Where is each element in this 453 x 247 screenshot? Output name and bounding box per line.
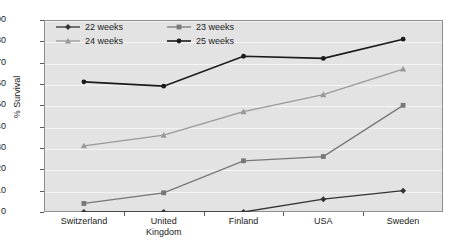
y-axis-title: % Survival — [12, 52, 22, 142]
series-23-weeks — [82, 103, 406, 206]
x-axis-tick-mark — [363, 212, 364, 216]
legend-label: 22 weeks — [85, 22, 123, 32]
x-axis-tick-mark — [283, 212, 284, 216]
x-axis-tick-label: Finland — [229, 216, 259, 227]
y-axis-tick-label: 70 — [0, 57, 6, 67]
survival-line-chart: % Survival 0102030405060708090 Switzerla… — [0, 0, 453, 247]
legend-swatch-circle-icon — [166, 36, 192, 46]
data-point-marker — [65, 24, 71, 30]
x-axis-tick-label: United Kingdom — [146, 216, 182, 238]
data-point-marker — [161, 209, 167, 212]
y-axis-tick-label: 20 — [0, 163, 6, 173]
series-line — [84, 39, 403, 86]
data-point-marker — [81, 209, 87, 212]
data-point-marker — [320, 196, 326, 202]
y-axis-tick-label: 80 — [0, 35, 6, 45]
series-lines — [44, 20, 443, 212]
x-axis-tick-label: USA — [314, 216, 333, 227]
chart-legend: 22 weeks23 weeks24 weeks25 weeks — [55, 22, 265, 46]
legend-item-22-weeks[interactable]: 22 weeks — [55, 22, 154, 32]
y-axis-tick-label: 40 — [0, 121, 6, 131]
data-point-marker — [321, 56, 326, 61]
x-axis-tick-mark — [204, 212, 205, 216]
series-line — [84, 105, 403, 203]
data-point-marker — [161, 84, 166, 89]
legend-swatch-diamond-icon — [55, 22, 81, 32]
legend-swatch-square-icon — [166, 22, 192, 32]
x-axis-tick-label: Sweden — [387, 216, 420, 227]
y-axis-tick-label: 30 — [0, 142, 6, 152]
data-point-marker — [400, 188, 406, 194]
data-point-marker — [401, 37, 406, 42]
y-axis-tick-label: 50 — [0, 99, 6, 109]
legend-label: 23 weeks — [196, 22, 234, 32]
legend-item-25-weeks[interactable]: 25 weeks — [166, 36, 265, 46]
series-22-weeks — [81, 188, 406, 212]
legend-item-24-weeks[interactable]: 24 weeks — [55, 36, 154, 46]
legend-swatch-triangle-icon — [55, 36, 81, 46]
y-axis-tick-mark — [40, 212, 44, 213]
data-point-marker — [241, 158, 246, 163]
data-point-marker — [161, 190, 166, 195]
legend-label: 25 weeks — [196, 36, 234, 46]
legend-label: 24 weeks — [85, 36, 123, 46]
data-point-marker — [177, 39, 182, 44]
data-point-marker — [321, 154, 326, 159]
data-point-marker — [82, 201, 87, 206]
data-point-marker — [241, 54, 246, 59]
series-24-weeks — [81, 66, 406, 148]
y-axis-tick-label: 0 — [0, 206, 6, 216]
data-point-marker — [177, 25, 182, 30]
data-point-marker — [401, 103, 406, 108]
data-point-marker — [241, 209, 247, 212]
series-line — [84, 69, 403, 146]
data-point-marker — [82, 79, 87, 84]
x-axis-tick-label: Switzerland — [61, 216, 108, 227]
legend-item-23-weeks[interactable]: 23 weeks — [166, 22, 265, 32]
y-axis-tick-label: 10 — [0, 185, 6, 195]
y-axis-tick-label: 90 — [0, 14, 6, 24]
data-point-marker — [400, 66, 406, 72]
x-axis-tick-mark — [124, 212, 125, 216]
y-axis-tick-label: 60 — [0, 78, 6, 88]
series-line — [84, 191, 403, 212]
